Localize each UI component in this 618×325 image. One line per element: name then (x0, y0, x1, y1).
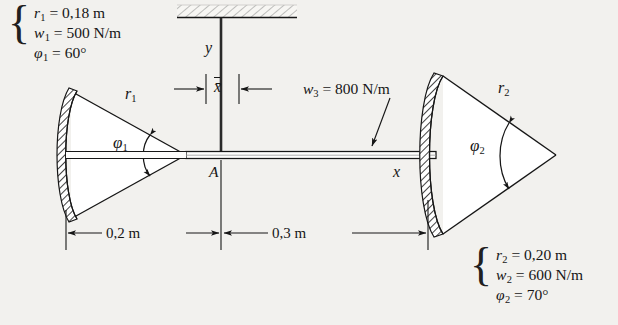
centroid-distance-text: x̄ (214, 78, 221, 95)
phi2-symbol: φ (470, 136, 479, 155)
phi1-label: φ1 (113, 133, 128, 155)
left-spec-w1-symbol: w (34, 24, 44, 41)
left-spec-line-2: w1 = 500 N/m (34, 24, 121, 45)
left-spec-w1-unit: N/m (94, 24, 122, 41)
centroid-distance-label: x̄ (214, 77, 221, 97)
top-support-bar (177, 5, 297, 18)
right-spec-phi2-value: 70 (527, 286, 543, 303)
w3-unit: N/m (362, 80, 390, 97)
right-sector (420, 73, 556, 237)
left-spec-w1-value: 500 (66, 24, 89, 41)
right-spec-phi2-unit: ° (542, 286, 548, 303)
phi1-subscript: 1 (122, 142, 127, 153)
right-spec-phi2-symbol: φ (496, 286, 505, 303)
dimension-label-right: 0,3 m (272, 224, 306, 242)
right-spec-r2-equals: = (511, 246, 520, 263)
r2-label: r2 (498, 78, 509, 100)
w3-equals: = (322, 80, 331, 97)
dimension-label-left: 0,2 m (106, 224, 140, 242)
phi1-symbol: φ (113, 133, 122, 152)
right-spec-phi2-equals: = (514, 286, 523, 303)
right-spec-line-3: φ2 = 70° (496, 286, 548, 307)
right-spec-r2-value: 0,20 (524, 246, 551, 263)
right-spec-w2-symbol: w (496, 266, 506, 283)
w3-leader-arrow (372, 98, 390, 146)
left-spec-w1-equals: = (54, 24, 63, 41)
r2-subscript: 2 (504, 87, 509, 98)
w3-value: 800 (335, 80, 358, 97)
left-spec-r1-equals: = (49, 4, 58, 21)
left-spec-phi1-value: 60 (65, 44, 81, 61)
origin-point-label: A (209, 163, 218, 182)
right-spec-w2-equals: = (516, 266, 525, 283)
r1-label: r1 (125, 84, 136, 106)
left-spec-r1-unit: m (93, 4, 105, 21)
xbar-dimension (174, 74, 272, 104)
w3-symbol: w (303, 80, 313, 97)
r1-subscript: 1 (131, 93, 136, 104)
left-spec-phi1-unit: ° (80, 44, 86, 61)
right-spec-w2-value: 600 (528, 266, 551, 283)
right-spec-brace: { (470, 238, 492, 291)
left-spec-brace: { (8, 0, 30, 49)
left-spec-phi1-symbol: φ (34, 44, 43, 61)
w3-callout-label: w3 = 800 N/m (303, 80, 390, 101)
left-spec-line-1: r1 = 0,18 m (34, 4, 105, 25)
right-spec-line-2: w2 = 600 N/m (496, 266, 583, 287)
horizontal-beam (186, 152, 436, 159)
x-axis-label: x (393, 162, 400, 182)
right-spec-r2-unit: m (555, 246, 567, 263)
engineering-figure: { r1 = 0,18 m w1 = 500 N/m φ1 = 60° { r2… (0, 0, 618, 325)
y-axis-label: y (205, 38, 212, 58)
right-spec-line-1: r2 = 0,20 m (496, 246, 567, 267)
left-spec-phi1-equals: = (52, 44, 61, 61)
phi2-label: φ2 (470, 136, 485, 158)
left-spec-r1-value: 0,18 (62, 4, 89, 21)
phi2-subscript: 2 (479, 145, 484, 156)
right-spec-w2-unit: N/m (556, 266, 584, 283)
left-spec-line-3: φ1 = 60° (34, 44, 86, 65)
